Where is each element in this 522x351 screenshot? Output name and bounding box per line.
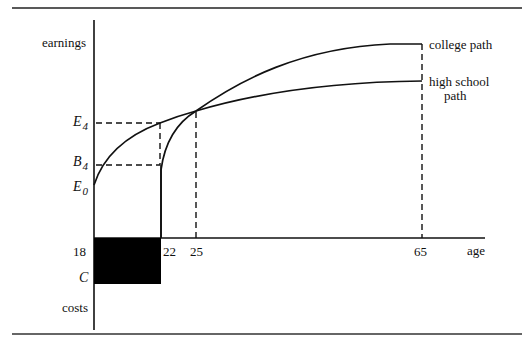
- high-school-path-curve: [94, 81, 422, 185]
- earnings-label: earnings: [42, 36, 86, 50]
- c-tick: C: [79, 271, 88, 285]
- earnings-diagram: [0, 0, 522, 351]
- college-cost-block: [94, 238, 161, 284]
- college-path-curve: [161, 44, 422, 238]
- age-label: age: [467, 244, 485, 258]
- x-tick-18: 18: [73, 245, 86, 259]
- x-tick-22: 22: [163, 245, 176, 259]
- x-tick-65: 65: [414, 245, 427, 259]
- costs-label: costs: [62, 301, 88, 315]
- b4-tick: B4: [73, 155, 88, 169]
- e0-tick: E0: [73, 180, 88, 194]
- x-tick-25: 25: [190, 245, 203, 259]
- e4-tick: E4: [73, 115, 88, 129]
- college-path-label: college path: [429, 38, 492, 52]
- high-school-path-label-line1: high school: [429, 75, 489, 89]
- high-school-path-label-line2: path: [444, 89, 466, 103]
